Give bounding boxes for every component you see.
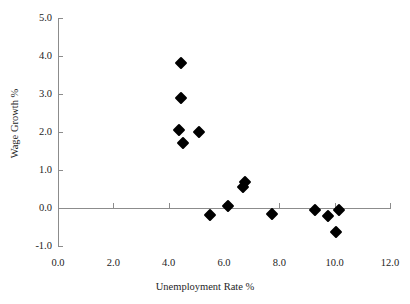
y-axis-title: Wage Growth % (9, 64, 20, 184)
y-tick-mark (58, 170, 63, 171)
x-tick-label: 0.0 (38, 257, 78, 268)
y-tick-mark (58, 56, 63, 57)
x-tick-label: 10.0 (315, 257, 355, 268)
y-tick-label: -1.0 (22, 240, 52, 251)
y-tick-label: 2.0 (22, 126, 52, 137)
y-tick-label: 5.0 (22, 12, 52, 23)
y-tick-label: 0.0 (22, 202, 52, 213)
data-point-marker (321, 210, 334, 223)
data-point-marker (330, 226, 343, 239)
data-point-marker (266, 207, 279, 220)
data-point-marker (193, 126, 206, 139)
data-point-marker (176, 137, 189, 150)
x-tick-mark (279, 203, 280, 208)
x-tick-label: 8.0 (259, 257, 299, 268)
x-axis-title: Unemployment Rate % (0, 281, 410, 292)
data-point-marker (175, 91, 188, 104)
y-tick-label: 4.0 (22, 50, 52, 61)
x-tick-label: 4.0 (149, 257, 189, 268)
data-point-marker (173, 124, 186, 137)
y-tick-label: 3.0 (22, 88, 52, 99)
x-tick-mark (390, 203, 391, 208)
y-axis-line (58, 19, 59, 247)
x-tick-label: 12.0 (370, 257, 410, 268)
y-tick-label: 1.0 (22, 164, 52, 175)
y-tick-mark (58, 208, 63, 209)
data-point-marker (222, 200, 235, 213)
data-point-marker (204, 208, 217, 221)
x-tick-mark (169, 203, 170, 208)
x-tick-label: 6.0 (204, 257, 244, 268)
data-point-marker (175, 56, 188, 69)
y-tick-mark (58, 94, 63, 95)
y-tick-mark (58, 246, 63, 247)
y-tick-mark (58, 18, 63, 19)
x-tick-label: 2.0 (93, 257, 133, 268)
y-tick-mark (58, 132, 63, 133)
scatter-chart: -1.00.01.02.03.04.05.0 0.02.04.06.08.010… (0, 0, 410, 304)
data-point-marker (309, 204, 322, 217)
x-tick-mark (113, 203, 114, 208)
